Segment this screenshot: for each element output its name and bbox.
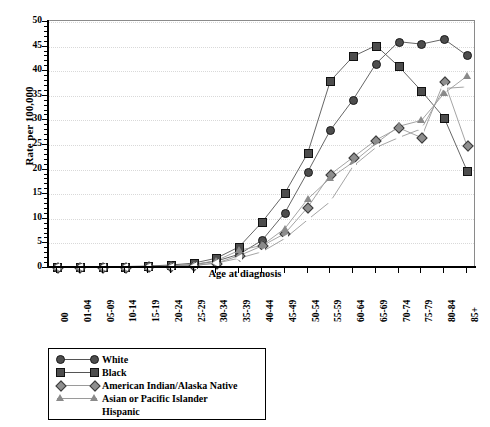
y-minor-tick xyxy=(44,208,48,209)
y-tick xyxy=(42,21,48,22)
y-minor-tick xyxy=(44,174,48,175)
x-tick-label: 80-84 xyxy=(447,300,457,322)
y-tick-label: 5 xyxy=(20,237,42,246)
legend-key xyxy=(54,353,100,366)
y-minor-tick xyxy=(44,198,48,199)
series-line xyxy=(57,46,467,267)
y-minor-tick xyxy=(44,124,48,125)
x-axis-title: Age at diagnosis xyxy=(0,268,490,279)
legend-item-asian-or-pacific-islander[interactable]: Asian or Pacific Islander xyxy=(54,392,260,405)
y-tick-label: 50 xyxy=(20,16,42,25)
legend-item-american-indian-alaska-native[interactable]: American Indian/Alaska Native xyxy=(54,379,260,392)
y-minor-tick xyxy=(44,257,48,258)
y-minor-tick xyxy=(44,31,48,32)
y-minor-tick xyxy=(44,80,48,81)
legend-label: Asian or Pacific Islander xyxy=(100,393,208,404)
legend-line xyxy=(57,385,97,386)
y-minor-tick xyxy=(44,134,48,135)
y-tick xyxy=(42,46,48,47)
series-line xyxy=(57,81,467,267)
y-minor-tick xyxy=(44,100,48,101)
y-tick xyxy=(42,70,48,71)
x-tick-label: 55-59 xyxy=(333,300,343,322)
x-tick-label: 85+ xyxy=(470,307,480,322)
y-tick-label: 10 xyxy=(20,213,42,222)
y-minor-tick xyxy=(44,114,48,115)
y-axis-title: Rate per 100,000 xyxy=(23,51,35,201)
legend-line xyxy=(57,359,97,360)
chart-figure: 05101520253035404550 Rate per 100,000 00… xyxy=(0,0,490,427)
y-minor-tick xyxy=(44,65,48,66)
y-minor-tick xyxy=(44,75,48,76)
legend-item-hispanic[interactable]: Hispanic xyxy=(54,405,260,418)
y-tick xyxy=(42,95,48,96)
legend-line xyxy=(57,398,97,399)
legend-label: Black xyxy=(100,367,126,378)
x-tick-label: 10-14 xyxy=(128,300,138,322)
x-tick-label: 70-74 xyxy=(402,300,412,322)
y-minor-tick xyxy=(44,183,48,184)
x-tick-label: 15-19 xyxy=(151,300,161,322)
y-minor-tick xyxy=(44,55,48,56)
y-minor-tick xyxy=(44,60,48,61)
y-minor-tick xyxy=(44,237,48,238)
y-minor-tick xyxy=(44,223,48,224)
y-tick xyxy=(42,169,48,170)
y-tick xyxy=(42,242,48,243)
legend-key xyxy=(54,379,100,392)
y-minor-tick xyxy=(44,159,48,160)
y-minor-tick xyxy=(44,213,48,214)
legend-item-black[interactable]: Black xyxy=(54,366,260,379)
y-minor-tick xyxy=(44,228,48,229)
x-tick-label: 65-69 xyxy=(379,300,389,322)
legend: WhiteBlackAmerican Indian/Alaska NativeA… xyxy=(48,348,266,420)
x-tick-label: 05-09 xyxy=(106,300,116,322)
legend-line xyxy=(57,372,97,373)
legend-label: American Indian/Alaska Native xyxy=(100,380,238,391)
series-line xyxy=(57,76,467,267)
series-lines xyxy=(48,21,476,268)
y-minor-tick xyxy=(44,262,48,263)
y-tick xyxy=(42,193,48,194)
x-tick-label: 60-64 xyxy=(356,300,366,322)
x-tick-label: 00 xyxy=(60,313,70,323)
legend-item-white[interactable]: White xyxy=(54,353,260,366)
y-minor-tick xyxy=(44,129,48,130)
legend-key xyxy=(54,366,100,379)
y-minor-tick xyxy=(44,41,48,42)
y-tick-label: 45 xyxy=(20,41,42,50)
y-minor-tick xyxy=(44,105,48,106)
x-tick-label: 75-79 xyxy=(424,300,434,322)
legend-label: Hispanic xyxy=(100,406,140,417)
legend-key xyxy=(54,392,100,405)
y-minor-tick xyxy=(44,36,48,37)
x-tick-label: 50-54 xyxy=(311,300,321,322)
y-minor-tick xyxy=(44,203,48,204)
y-minor-tick xyxy=(44,51,48,52)
left-triangle-marker-icon xyxy=(90,407,97,415)
y-minor-tick xyxy=(44,90,48,91)
x-tick-label: 20-24 xyxy=(174,300,184,322)
y-minor-tick xyxy=(44,188,48,189)
legend-key xyxy=(54,405,100,418)
left-triangle-marker-icon xyxy=(56,407,63,415)
y-minor-tick xyxy=(44,139,48,140)
y-tick xyxy=(42,218,48,219)
y-minor-tick xyxy=(44,164,48,165)
plot-area xyxy=(47,20,475,267)
y-minor-tick xyxy=(44,233,48,234)
y-minor-tick xyxy=(44,154,48,155)
x-tick-label: 30-34 xyxy=(219,300,229,322)
x-tick-label: 35-39 xyxy=(242,300,252,322)
y-minor-tick xyxy=(44,110,48,111)
x-tick-label: 01-04 xyxy=(83,300,93,322)
y-tick xyxy=(42,144,48,145)
x-tick-label: 45-49 xyxy=(288,300,298,322)
y-minor-tick xyxy=(44,85,48,86)
x-tick-label: 40-44 xyxy=(265,300,275,322)
legend-label: White xyxy=(100,354,128,365)
y-minor-tick xyxy=(44,178,48,179)
y-tick xyxy=(42,119,48,120)
y-minor-tick xyxy=(44,247,48,248)
x-tick-label: 25-29 xyxy=(197,300,207,322)
